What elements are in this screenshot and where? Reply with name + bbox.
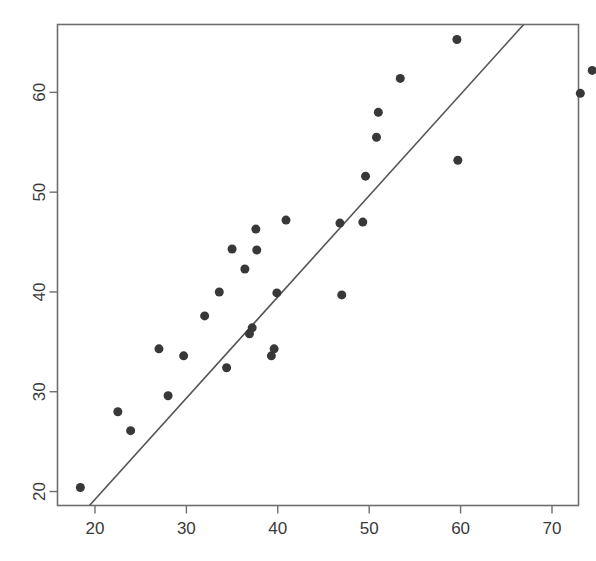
data-point (372, 133, 381, 142)
data-point (361, 172, 370, 181)
data-point (240, 264, 249, 273)
x-tick-label: 20 (86, 519, 105, 538)
data-point (215, 287, 224, 296)
data-point (252, 246, 261, 255)
data-point (228, 245, 237, 254)
plot-canvas: 203040506070 2030405060 (0, 0, 596, 561)
y-tick-label: 50 (30, 183, 49, 202)
x-tick-label: 70 (543, 519, 562, 538)
x-tick-label: 40 (268, 519, 287, 538)
data-point (251, 225, 260, 234)
data-point (337, 290, 346, 299)
data-point (282, 216, 291, 225)
x-tick-label: 60 (451, 519, 470, 538)
data-point (374, 108, 383, 117)
y-tick-label: 30 (30, 382, 49, 401)
data-point (358, 218, 367, 227)
figure-background (0, 0, 596, 561)
data-point (335, 219, 344, 228)
data-point (113, 407, 122, 416)
data-point (396, 74, 405, 83)
scatter-plot-figure: 203040506070 2030405060 (0, 0, 596, 561)
data-point (200, 311, 209, 320)
data-point (248, 323, 257, 332)
data-point (453, 156, 462, 165)
y-tick-label: 20 (30, 482, 49, 501)
data-point (272, 288, 281, 297)
data-point (452, 35, 461, 44)
data-point (164, 391, 173, 400)
x-tick-label: 50 (360, 519, 379, 538)
data-point (222, 363, 231, 372)
y-tick-label: 40 (30, 282, 49, 301)
data-point (154, 344, 163, 353)
x-tick-label: 30 (177, 519, 196, 538)
data-point (126, 426, 135, 435)
data-point (179, 351, 188, 360)
data-point (76, 483, 85, 492)
data-point (270, 344, 279, 353)
y-tick-label: 60 (30, 83, 49, 102)
data-point (576, 89, 585, 98)
